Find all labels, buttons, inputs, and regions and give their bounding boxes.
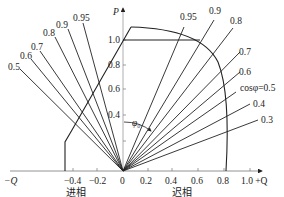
y-tick-1.0: 1.0 <box>108 35 120 45</box>
x-tick-0.2: 0.2 <box>140 176 152 186</box>
y-tick-0.6: 0.6 <box>108 84 120 94</box>
p-axis-label: P <box>112 7 119 17</box>
x-tick-0.4: 0.4 <box>165 176 177 186</box>
leading-pf-0.5: 0.5 <box>8 62 20 72</box>
leading-pf-0.6: 0.6 <box>20 51 32 61</box>
lagging-pf-0.7: 0.7 <box>239 47 251 57</box>
leading-limit-line <box>65 27 131 171</box>
pq-capability-diagram: φ₀ P −Q 1.0 +Q 1.0 0.8 0.6 0.4 −0.4 −0.2… <box>0 0 284 197</box>
lagging-region-label: 迟相 <box>172 186 192 197</box>
x-tick-neg-0.4: −0.4 <box>64 176 81 186</box>
leading-pf-0.8: 0.8 <box>43 28 55 38</box>
leading-pf-0.95: 0.95 <box>73 13 90 23</box>
lagging-pf-0.5: cosφ=0.5 <box>240 83 276 93</box>
q-pos-label: 1.0 +Q <box>241 176 268 186</box>
lagging-pf-0.95: 0.95 <box>180 12 197 22</box>
lagging-pf-lines <box>123 20 258 171</box>
lagging-pf-0.9: 0.9 <box>209 6 221 16</box>
leading-pf-0.7: 0.7 <box>31 42 43 52</box>
lagging-pf-0.6: 0.6 <box>239 67 251 77</box>
x-tick-0.6: 0.6 <box>191 176 203 186</box>
lagging-pf-0.4: 0.4 <box>253 99 265 109</box>
q-neg-label: −Q <box>4 176 17 186</box>
lagging-pf-0.8: 0.8 <box>230 16 242 26</box>
phi0-label: φ₀ <box>132 118 141 128</box>
y-tick-0.4: 0.4 <box>108 110 120 120</box>
leading-pf-0.9: 0.9 <box>56 20 68 30</box>
leading-region-label: 进相 <box>66 186 86 197</box>
y-tick-0.8: 0.8 <box>108 60 120 70</box>
x-tick-0.8: 0.8 <box>217 176 229 186</box>
lagging-pf-0.3: 0.3 <box>261 115 273 125</box>
x-tick-0: 0 <box>120 176 125 186</box>
capability-boundary <box>65 27 227 171</box>
x-tick-neg-0.2: −0.2 <box>89 176 106 186</box>
